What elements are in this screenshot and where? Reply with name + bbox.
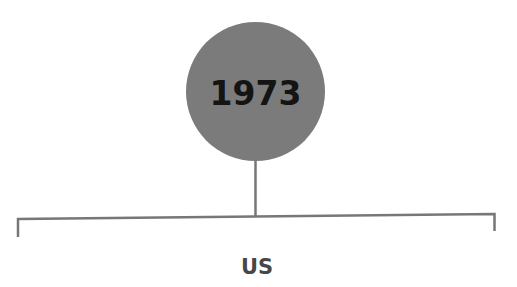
child-node-label: US: [227, 255, 287, 279]
root-node-label: 1973: [210, 74, 302, 113]
root-node-circle: 1973: [186, 22, 325, 161]
bracket-line: [18, 214, 495, 237]
